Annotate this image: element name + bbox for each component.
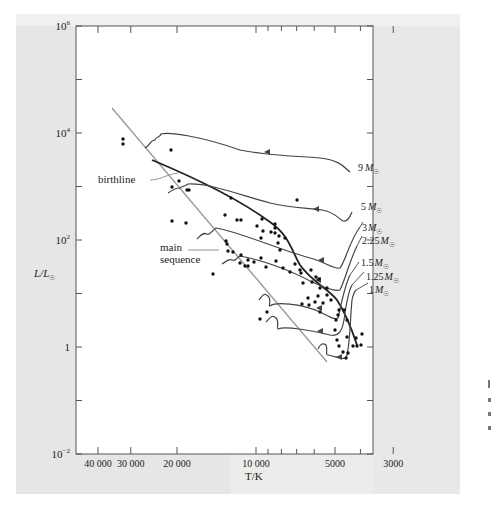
star-point [223,213,226,216]
star-point [341,350,344,353]
star-point [318,310,321,313]
star-point [225,242,228,245]
star-point [246,258,249,261]
star-point [355,344,358,347]
star-point [273,222,276,225]
star-point [259,256,262,259]
figure-bg-margin [373,14,460,494]
star-point [316,294,319,297]
figure-bg-top [16,14,460,26]
star-point [344,356,347,359]
star-point [226,249,229,252]
star-point [243,264,246,267]
star-point [121,137,124,140]
star-point [224,239,227,242]
star-point [295,198,298,201]
star-point [345,335,348,338]
star-point [281,266,284,269]
star-point [354,336,357,339]
star-point [274,259,277,262]
star-point [264,265,267,268]
star-point [255,224,258,227]
star-point [346,351,349,354]
y-tick-label: 1 [65,341,71,353]
star-point [310,280,313,283]
star-point [342,308,345,311]
star-point [359,343,362,346]
star-point [283,236,286,239]
star-point [259,236,262,239]
star-point [334,318,337,321]
star-point [269,230,272,233]
caption-fragment [488,380,498,440]
star-point [337,344,340,347]
star-point [335,338,338,341]
star-point [177,179,180,182]
star-point [314,275,317,278]
birthline-label: birthline [98,173,135,185]
main-sequence-label-line2: sequence [160,253,200,265]
star-point [336,313,339,316]
star-point [317,277,320,280]
x-tick-label: 30 000 [117,458,145,469]
star-point [299,271,302,274]
star-point [273,231,276,234]
star-point [309,268,312,271]
star-point [261,229,264,232]
star-point [229,196,232,199]
star-point [337,308,340,311]
star-point [169,148,172,151]
star-point [333,328,336,331]
star-point [231,250,234,253]
star-point [278,248,281,251]
star-point [276,241,279,244]
star-point [260,217,263,220]
star-point [298,268,301,271]
star-point [351,344,354,347]
star-point [239,218,242,221]
star-point [277,234,280,237]
star-point [321,301,324,304]
x-tick-label: 10 000 [242,458,270,469]
star-point [265,310,268,313]
x-tick-label: 40 000 [84,458,112,469]
star-point [238,261,241,264]
star-point [184,221,187,224]
star-point [187,188,190,191]
star-point [170,185,173,188]
star-point [170,219,173,222]
star-point [329,298,332,301]
star-point [121,142,124,145]
star-point [293,262,296,265]
star-point [360,332,363,335]
star-point [288,270,291,273]
star-point [239,253,242,256]
star-point [300,302,303,305]
star-point [318,286,321,289]
hr-diagram: 40 00030 00020 00010 00050003000 1061041… [0,0,498,509]
star-point [211,272,214,275]
star-point [313,300,316,303]
star-point [258,317,261,320]
star-point [235,218,238,221]
x-tick-label: 20 000 [163,458,191,469]
star-point [325,286,328,289]
star-point [306,296,309,299]
star-point [273,226,276,229]
star-point [301,281,304,284]
x-axis-title: T/K [245,470,263,482]
main-sequence-label-line1: main [160,241,182,253]
x-tick-label: 5000 [325,458,345,469]
star-point [252,260,255,263]
star-point [325,293,328,296]
x-tick-label: 3000 [383,458,403,469]
star-point [345,318,348,321]
star-point [307,303,310,306]
star-point [246,264,249,267]
